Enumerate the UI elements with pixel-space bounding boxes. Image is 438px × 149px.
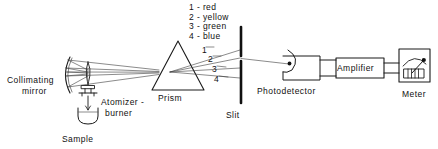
amplifier-label: Amplifier	[337, 63, 374, 74]
figure-canvas: 1 - red 2 - yellow 3 - green 4 - blue 1 …	[0, 0, 438, 149]
atomizer-burner-label-line1: Atomizer -	[101, 97, 144, 108]
atomizer-burner-label-line2: burner	[105, 108, 132, 119]
wire-photodetector-amplifier	[320, 60, 336, 76]
ray-number-2: 2	[208, 54, 213, 64]
photodetector-label: Photodetector	[257, 86, 316, 97]
wire-amplifier-meter	[384, 63, 399, 73]
dispersed-ray-legend: 1 - red 2 - yellow 3 - green 4 - blue	[189, 3, 229, 41]
ray-slit-to-photodetector	[241, 59, 289, 65]
slit-label: Slit	[226, 110, 240, 121]
collimating-mirror-label-line2: mirror	[22, 86, 47, 97]
photodetector-icon	[283, 50, 320, 80]
ray-number-4: 4	[214, 74, 219, 84]
collimating-mirror-icon	[66, 57, 73, 93]
collimating-mirror-label-line1: Collimating	[7, 75, 54, 86]
meter-label: Meter	[402, 89, 426, 100]
meter-icon	[399, 49, 430, 82]
dispersed-ray-4	[170, 72, 240, 78]
ray-number-1: 1	[202, 45, 207, 55]
ray-bundle-mirror-to-prism	[66, 60, 159, 87]
prism-label: Prism	[158, 93, 182, 104]
ray-number-3: 3	[212, 64, 217, 74]
sample-label: Sample	[62, 134, 94, 145]
prism-icon	[152, 41, 204, 90]
